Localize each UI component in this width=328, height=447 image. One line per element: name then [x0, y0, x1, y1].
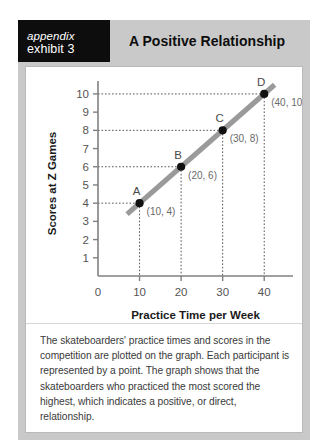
data-point-B[interactable]	[177, 163, 185, 171]
exhibit-tag-number: exhibit 3	[27, 42, 110, 56]
y-tick-label-6: 6	[83, 161, 89, 173]
y-tick-label-2: 2	[83, 234, 89, 246]
data-point-coord-D: (40, 10)	[271, 97, 302, 108]
exhibit-caption: The skateboarders' practice times and sc…	[40, 333, 290, 424]
exhibit-card: appendix exhibit 3 A Positive Relationsh…	[18, 20, 310, 440]
data-point-letter-C: C	[216, 112, 224, 124]
data-point-coord-B: (20, 6)	[188, 170, 217, 181]
y-tick-label-1: 1	[83, 252, 89, 264]
data-point-D[interactable]	[260, 90, 268, 98]
data-point-letter-A: A	[133, 185, 141, 197]
exhibit-header: appendix exhibit 3 A Positive Relationsh…	[18, 20, 310, 62]
y-tick-label-3: 3	[83, 215, 89, 227]
x-tick-label-30: 30	[216, 286, 229, 298]
caption-divider	[26, 323, 302, 324]
y-tick-label-5: 5	[83, 179, 89, 191]
data-point-coord-C: (30, 8)	[230, 133, 259, 144]
chart-canvas: 12345678910010203040A(10, 4)B(20, 6)C(30…	[26, 67, 302, 322]
exhibit-tag-block: appendix exhibit 3	[18, 20, 110, 62]
data-point-letter-D: D	[257, 76, 265, 88]
y-tick-label-7: 7	[83, 143, 89, 155]
y-tick-label-8: 8	[83, 124, 89, 136]
data-point-C[interactable]	[219, 126, 227, 134]
exhibit-body-panel: 12345678910010203040A(10, 4)B(20, 6)C(30…	[25, 66, 303, 433]
y-axis-title: Scores at Z Games	[46, 132, 58, 236]
data-point-letter-B: B	[174, 149, 182, 161]
exhibit-tag-appendix: appendix	[27, 30, 110, 43]
x-axis-title: Practice Time per Week	[131, 309, 260, 321]
y-tick-label-4: 4	[83, 197, 90, 209]
x-tick-label-20: 20	[175, 286, 188, 298]
x-tick-label-10: 10	[133, 286, 146, 298]
y-tick-label-10: 10	[76, 88, 89, 100]
x-tick-label-0: 0	[95, 286, 101, 298]
data-point-coord-A: (10, 4)	[147, 206, 176, 217]
data-point-A[interactable]	[135, 199, 143, 207]
exhibit-title: A Positive Relationship	[110, 20, 310, 62]
y-tick-label-9: 9	[83, 106, 89, 118]
x-tick-label-40: 40	[258, 286, 271, 298]
trend-line	[127, 85, 275, 214]
scatter-chart: 12345678910010203040A(10, 4)B(20, 6)C(30…	[26, 67, 302, 322]
